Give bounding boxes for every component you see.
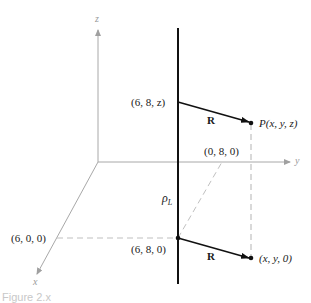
label-6-0-0: (6, 0, 0) xyxy=(11,233,46,244)
label-lower-R: R xyxy=(207,251,215,262)
figure-caption: Figure 2.x xyxy=(2,291,51,303)
label-6-8-z: (6, 8, z) xyxy=(131,97,165,108)
x-axis xyxy=(37,162,98,274)
label-P: P(x, y, z) xyxy=(259,118,297,129)
dashed-diagonal-line xyxy=(178,162,222,238)
label-0-8-0: (0, 8, 0) xyxy=(204,146,239,157)
point-P xyxy=(249,121,254,126)
label-rho-L: ρL xyxy=(162,192,172,207)
z-axis-label: z xyxy=(95,14,99,24)
x-axis-label: x xyxy=(33,277,37,287)
point-projection xyxy=(249,256,254,261)
label-6-8-0: (6, 8, 0) xyxy=(131,244,166,255)
label-upper-R: R xyxy=(207,115,215,126)
label-6-8-z-text: (6, 8, z) xyxy=(131,96,165,108)
point-6-8-0 xyxy=(176,236,181,241)
y-axis-label: y xyxy=(295,156,299,166)
label-x-y-0: (x, y, 0) xyxy=(259,253,292,264)
rho-subscript: L xyxy=(168,198,172,207)
